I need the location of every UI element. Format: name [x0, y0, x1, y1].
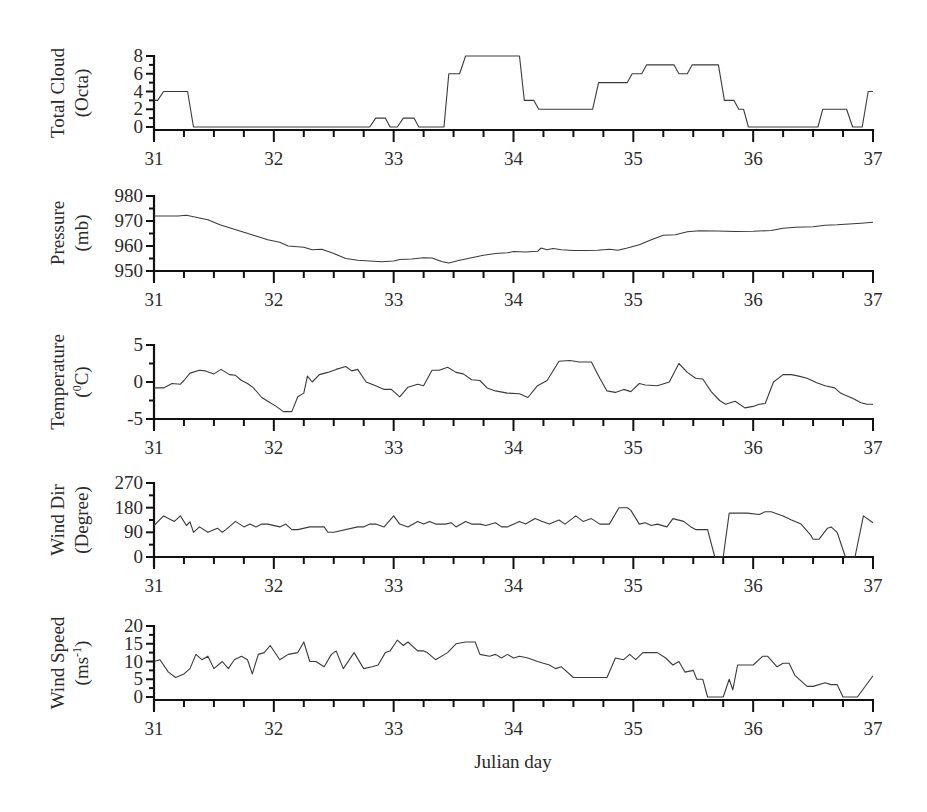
y-tick-label: 180: [115, 497, 144, 518]
x-axis: 31323334353637: [145, 271, 883, 310]
y-tick-label: 270: [115, 472, 144, 493]
x-tick-label: 37: [864, 148, 883, 169]
x-tick-label: 32: [264, 437, 283, 458]
panel-temperature: Temperature (0C) -505 31323334353637: [47, 334, 883, 458]
ylabel-line2: (0C): [70, 366, 93, 397]
x-tick-label: 35: [624, 148, 643, 169]
x-tick-label: 32: [264, 289, 283, 310]
y-tick-label: 950: [115, 260, 144, 281]
figure-canvas: Total Cloud (Octa) 02468 31323334353637 …: [0, 0, 927, 812]
ylabel-line1: Total Cloud: [47, 48, 68, 138]
ylabel-line2: (Degree): [71, 486, 93, 554]
x-tick-label: 33: [384, 289, 403, 310]
x-tick-label: 31: [145, 718, 164, 739]
series-line-wind-speed: [154, 640, 873, 697]
ylabel-line2: (Octa): [71, 69, 93, 118]
x-tick-label: 37: [864, 575, 883, 596]
y-tick-label: -5: [127, 408, 143, 429]
ylabel-line2: (ms-1): [70, 641, 93, 686]
x-tick-label: 33: [384, 437, 403, 458]
ylabel-line2: (mb): [71, 215, 93, 252]
x-tick-label: 32: [264, 148, 283, 169]
x-tick-label: 37: [864, 437, 883, 458]
x-axis: 31323334353637: [145, 700, 883, 739]
ylabel-line1: Pressure: [47, 201, 68, 265]
x-tick-label: 36: [744, 575, 763, 596]
multi-panel-meteorology-figure: Total Cloud (Octa) 02468 31323334353637 …: [0, 0, 927, 812]
series-line-temperature: [154, 361, 873, 412]
panel-total-cloud: Total Cloud (Octa) 02468 31323334353637: [47, 45, 883, 169]
x-tick-label: 34: [504, 289, 524, 310]
x-tick-label: 36: [744, 437, 763, 458]
x-tick-label: 37: [864, 718, 883, 739]
x-tick-label: 33: [384, 718, 403, 739]
y-axis: 05101520: [124, 615, 154, 710]
y-tick-label: 20: [124, 615, 143, 636]
series-line-wind-direction: [154, 508, 873, 557]
x-tick-label: 36: [744, 289, 763, 310]
ylabel-line1: Temperature: [47, 334, 68, 430]
y-tick-label: 90: [124, 521, 143, 542]
x-axis: 31323334353637: [145, 557, 883, 596]
x-tick-label: 33: [384, 575, 403, 596]
x-tick-label: 32: [264, 575, 283, 596]
x-tick-label: 34: [504, 148, 524, 169]
panel-pressure: Pressure (mb) 950960970980 3132333435363…: [47, 185, 883, 310]
x-axis-title: Julian day: [474, 751, 552, 772]
x-tick-label: 31: [145, 575, 164, 596]
y-tick-label: 960: [115, 235, 144, 256]
x-tick-label: 31: [145, 148, 164, 169]
x-tick-label: 35: [624, 437, 643, 458]
x-tick-label: 34: [504, 437, 524, 458]
ylabel-line1: Wind Dir: [47, 484, 68, 556]
x-tick-label: 37: [864, 289, 883, 310]
x-axis: 31323334353637: [145, 419, 883, 458]
x-tick-label: 33: [384, 148, 403, 169]
x-tick-label: 35: [624, 289, 643, 310]
y-tick-label: 5: [134, 334, 144, 355]
panel-wind-speed: Wind Speed (ms-1) 05101520 3132333435363…: [47, 615, 883, 739]
x-tick-label: 31: [145, 289, 164, 310]
y-tick-label: 980: [115, 185, 144, 206]
x-tick-label: 31: [145, 437, 164, 458]
series-line-pressure: [154, 215, 873, 263]
x-axis: 31323334353637: [145, 130, 883, 169]
x-tick-label: 35: [624, 718, 643, 739]
x-tick-label: 35: [624, 575, 643, 596]
y-tick-label: 970: [115, 210, 144, 231]
y-tick-label: 0: [134, 371, 144, 392]
x-tick-label: 32: [264, 718, 283, 739]
x-tick-label: 36: [744, 718, 763, 739]
series-line-total-cloud: [154, 56, 873, 127]
x-tick-label: 36: [744, 148, 763, 169]
y-axis: 950960970980: [115, 185, 155, 281]
y-axis: -505: [127, 334, 154, 429]
panel-wind-direction: Wind Dir (Degree) 090180270 313233343536…: [47, 472, 883, 596]
y-axis: 090180270: [115, 472, 155, 567]
y-tick-label: 8: [134, 45, 144, 66]
y-tick-label: 0: [134, 546, 144, 567]
x-tick-label: 34: [504, 718, 524, 739]
ylabel-line1: Wind Speed: [47, 616, 68, 709]
y-axis: 02468: [134, 45, 155, 140]
x-tick-label: 34: [504, 575, 524, 596]
